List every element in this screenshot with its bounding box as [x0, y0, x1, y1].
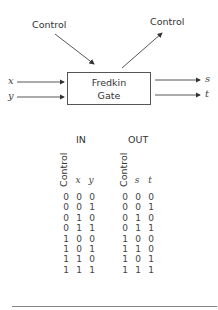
- in-y-column-header: y: [87, 175, 95, 185]
- out-cell: 0: [121, 192, 129, 202]
- out-cell: 1: [121, 265, 129, 275]
- out-t-column-header: t: [146, 175, 154, 185]
- out-cell: 0: [121, 202, 129, 212]
- in-cell: 0: [88, 254, 96, 264]
- in-cell: 1: [62, 265, 70, 275]
- out-cell: 1: [121, 254, 129, 264]
- out-cell: 1: [147, 254, 155, 264]
- in-cell: 0: [88, 192, 96, 202]
- in-cell: 0: [75, 192, 83, 202]
- out-cell: 1: [147, 223, 155, 233]
- output-s-label: s: [205, 73, 210, 84]
- in-cell: 1: [75, 265, 83, 275]
- in-cell: 0: [75, 234, 83, 244]
- out-cell: 0: [134, 202, 142, 212]
- control-in-label: Control: [32, 19, 66, 30]
- control-in-arrow: [55, 34, 94, 64]
- out-cell: 0: [134, 234, 142, 244]
- out-cell: 1: [134, 265, 142, 275]
- in-x-column-header: x: [74, 175, 82, 185]
- in-cell: 1: [75, 254, 83, 264]
- control-out-arrow: [122, 33, 162, 68]
- in-cell: 0: [88, 213, 96, 223]
- out-cell: 1: [134, 213, 142, 223]
- in-control-column-header: Control: [58, 153, 69, 187]
- out-header: OUT: [128, 134, 148, 145]
- gate-title-line2: Gate: [68, 89, 150, 102]
- in-cell: 0: [62, 213, 70, 223]
- in-header: IN: [76, 134, 86, 145]
- in-cell: 1: [88, 223, 96, 233]
- out-cell: 0: [134, 254, 142, 264]
- in-cell: 1: [62, 234, 70, 244]
- out-cell: 0: [147, 244, 155, 254]
- out-cell: 1: [134, 223, 142, 233]
- in-cell: 1: [75, 213, 83, 223]
- in-cell: 0: [88, 234, 96, 244]
- in-cell: 0: [62, 192, 70, 202]
- input-x-label: x: [8, 75, 14, 86]
- in-cell: 1: [75, 223, 83, 233]
- out-cell: 1: [121, 234, 129, 244]
- fredkin-gate-box: Fredkin Gate: [67, 72, 151, 105]
- out-cell: 0: [134, 192, 142, 202]
- out-cell: 1: [147, 265, 155, 275]
- in-cell: 0: [62, 202, 70, 212]
- input-y-label: y: [8, 90, 14, 101]
- in-cell: 1: [88, 202, 96, 212]
- out-cell: 1: [134, 244, 142, 254]
- out-cell: 1: [147, 202, 155, 212]
- bottom-divider: [12, 306, 217, 307]
- out-cell: 0: [121, 223, 129, 233]
- in-cell: 0: [75, 244, 83, 254]
- in-cell: 1: [62, 244, 70, 254]
- control-out-label: Control: [150, 16, 184, 27]
- out-cell: 0: [147, 192, 155, 202]
- in-cell: 1: [62, 254, 70, 264]
- out-cell: 0: [147, 213, 155, 223]
- out-cell: 1: [121, 244, 129, 254]
- in-cell: 1: [88, 265, 96, 275]
- gate-title-line1: Fredkin: [68, 76, 150, 89]
- in-cell: 1: [88, 244, 96, 254]
- out-cell: 0: [147, 234, 155, 244]
- out-s-column-header: s: [133, 175, 141, 185]
- out-control-column-header: Control: [118, 153, 129, 187]
- out-cell: 0: [121, 213, 129, 223]
- diagram-arrows: [0, 0, 218, 310]
- in-cell: 0: [62, 223, 70, 233]
- output-t-label: t: [205, 88, 209, 99]
- in-cell: 0: [75, 202, 83, 212]
